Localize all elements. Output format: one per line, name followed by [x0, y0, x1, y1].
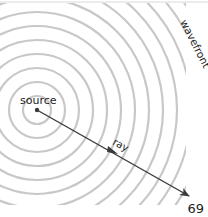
source-label: source [20, 94, 57, 107]
wavefront-rings [0, 0, 208, 217]
page-number: 69 [187, 201, 204, 216]
source-point [35, 108, 39, 112]
wavefront-ring [0, 0, 205, 217]
wavefront-ring [0, 68, 79, 152]
wavefront-diagram: source ray wavefront [0, 0, 208, 217]
wavefront-ring [0, 26, 121, 194]
wavefront-ring [0, 40, 107, 180]
wavefront-ring [0, 0, 163, 217]
wavefront-ring [0, 0, 177, 217]
